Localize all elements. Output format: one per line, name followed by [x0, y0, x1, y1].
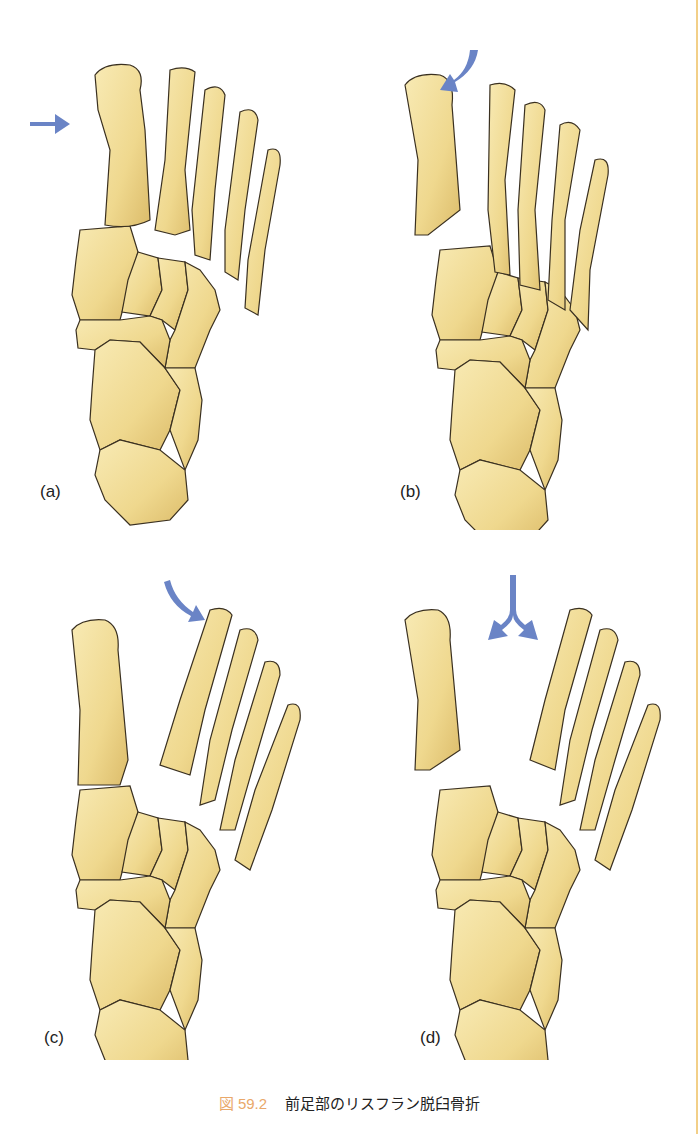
panel-label-c: (c): [44, 1028, 64, 1048]
foot-diagram-c: [10, 560, 350, 1060]
panel-d: (d): [360, 560, 699, 1100]
panel-a: (a): [10, 50, 350, 590]
foot-diagram-b: [360, 10, 699, 530]
foot-diagram-a: [10, 50, 350, 530]
figure-title: 前足部のリスフラン脱臼骨折: [285, 1095, 480, 1112]
straight-right-arrow-icon: [30, 114, 70, 134]
panel-label-a: (a): [40, 482, 61, 502]
curved-down-left-arrow-icon: [440, 50, 478, 92]
panel-b: (b): [360, 10, 699, 550]
panel-label-d: (d): [420, 1028, 441, 1048]
curved-down-right-arrow-icon: [164, 580, 205, 622]
figure-number: 図 59.2: [219, 1095, 267, 1112]
panel-label-b: (b): [400, 482, 421, 502]
figure-caption: 図 59.2 前足部のリスフラン脱臼骨折: [0, 1092, 699, 1113]
divergent-split-arrow-icon: [488, 575, 538, 640]
panel-c: (c): [10, 560, 350, 1100]
foot-diagram-d: [360, 560, 699, 1060]
